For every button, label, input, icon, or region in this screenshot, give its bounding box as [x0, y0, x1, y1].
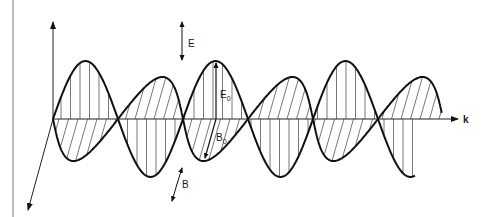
b-field-arrow-icon-down [172, 184, 177, 201]
b-hatch-line [60, 119, 68, 148]
b-hatch-line [154, 78, 166, 119]
k-axis-label: k [463, 114, 469, 125]
b-hatch-line [67, 119, 78, 158]
b-hatch-line [420, 81, 431, 119]
b-hatch-line [164, 85, 174, 119]
b-amplitude-label: B0 [216, 132, 227, 145]
b-hatch-line [192, 119, 201, 152]
b-hatch-line [318, 119, 325, 142]
b-field-label: B [182, 179, 189, 190]
diagonal-axis [28, 119, 53, 210]
b-hatch-line [411, 77, 423, 119]
b-hatch-line [173, 100, 179, 120]
b-hatch-line [297, 89, 306, 119]
b-hatch-line [430, 94, 437, 120]
b-hatch-line [199, 119, 211, 160]
em-wave-diagram: E B E0 B0 k [0, 0, 486, 217]
b-amplitude-arrow [205, 119, 216, 158]
b-hatch-line [306, 105, 310, 119]
b-hatch-line [187, 119, 192, 137]
diagram-canvas: E B E0 B0 k [0, 0, 486, 217]
e-amplitude-label: E0 [220, 89, 231, 102]
b-hatch-line [287, 79, 298, 119]
b-hatch-line [324, 119, 334, 155]
e-field-label: E [188, 38, 195, 49]
b-hatch-line [342, 119, 353, 158]
b-hatch-line [332, 119, 344, 161]
